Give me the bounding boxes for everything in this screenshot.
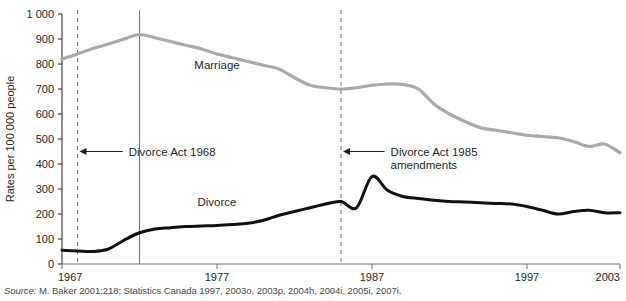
source-text: M. Baker 2001:218; Statistics Canada 199… xyxy=(36,285,401,296)
y-axis-tick-label: 400 xyxy=(36,158,54,170)
y-axis-tick-label: 200 xyxy=(36,208,54,220)
y-axis-tick-label: 700 xyxy=(36,83,54,95)
annotation-text-line1-divorce-act-1985-amendments: Divorce Act 1985 xyxy=(391,146,478,158)
x-axis-tick-label: 1997 xyxy=(515,271,539,283)
y-axis-tick-label: 900 xyxy=(36,33,54,45)
y-axis-tick-label: 0 xyxy=(48,258,54,270)
y-axis-tick-label: 100 xyxy=(36,233,54,245)
annotation-text-line2-divorce-act-1985-amendments: amendments xyxy=(391,159,458,171)
rates-line-chart: 01002003004005006007008009001 000Rates p… xyxy=(0,0,626,301)
source-label: Source: xyxy=(4,285,36,296)
y-axis-tick-label: 1 000 xyxy=(26,8,54,20)
source-note: Source: M. Baker 2001:218; Statistics Ca… xyxy=(4,285,401,296)
x-axis-tick-label: 1977 xyxy=(205,271,229,283)
annotation-arrow-head-divorce-act-1985-amendments xyxy=(343,148,350,155)
y-axis-title: Rates per 100 000 people xyxy=(4,76,16,203)
series-label-marriage: Marriage xyxy=(194,59,239,71)
y-axis-tick-label: 300 xyxy=(36,183,54,195)
series-label-divorce: Divorce xyxy=(198,196,237,208)
annotation-text-divorce-act-1968: Divorce Act 1968 xyxy=(129,146,216,158)
y-axis-tick-label: 600 xyxy=(36,108,54,120)
y-axis-tick-label: 500 xyxy=(36,133,54,145)
x-axis-tick-label: 1987 xyxy=(360,271,384,283)
x-axis-tick-label: 2003 xyxy=(596,271,620,283)
x-axis-tick-label: 1967 xyxy=(58,271,82,283)
annotation-arrow-head-divorce-act-1968 xyxy=(80,148,87,155)
y-axis-tick-label: 800 xyxy=(36,58,54,70)
chart-figure: 01002003004005006007008009001 000Rates p… xyxy=(0,0,626,301)
